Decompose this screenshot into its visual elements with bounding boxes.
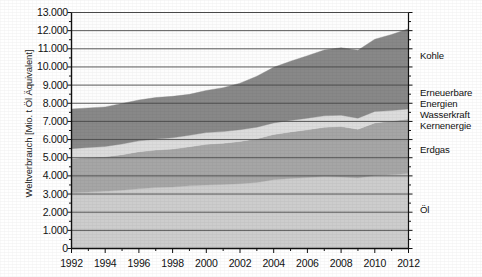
chart-container: Weltverbrauch [Mio. t Öl Äquivalent] 13.…: [0, 0, 482, 277]
chart-legend: KohleErneuerbareEnergienWasserkraftKerne…: [0, 0, 482, 277]
legend-label-kohle: Kohle: [420, 50, 444, 61]
legend-label-kernenergie: Kernenergie: [420, 120, 471, 131]
legend-label-wasserkraft: Wasserkraft: [420, 109, 470, 120]
legend-label-energien: Energien: [420, 98, 458, 109]
legend-label-erneuerbare: Erneuerbare: [420, 87, 472, 98]
legend-label--l: Öl: [420, 204, 429, 215]
legend-label-erdgas: Erdgas: [420, 144, 450, 155]
